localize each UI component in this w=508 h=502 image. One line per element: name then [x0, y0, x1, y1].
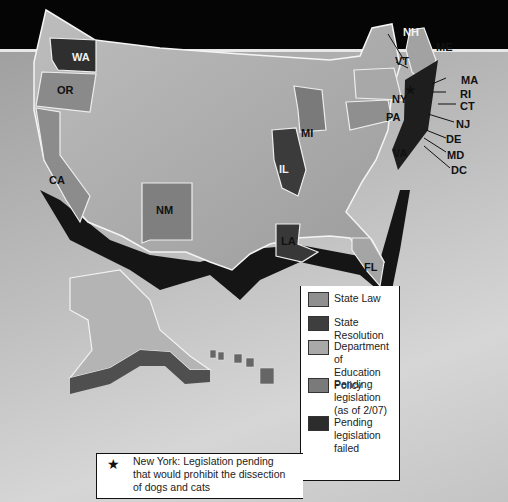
- ny-star-icon: ★: [405, 84, 416, 96]
- us-map: [0, 0, 508, 502]
- star-icon: ★: [107, 456, 120, 472]
- label-or: OR: [57, 85, 74, 96]
- legend-item-pending-failed: Pending legislation failed: [308, 416, 399, 455]
- new-york-note: ★ New York: Legislation pending that wou…: [96, 453, 303, 499]
- note-line-2: that would prohibit the dissection: [133, 468, 285, 481]
- swatch-pending: [308, 378, 329, 393]
- label-ca: CA: [49, 175, 65, 186]
- legend-label: Department of: [334, 340, 399, 366]
- label-nh: NH: [403, 27, 419, 38]
- label-ma: MA: [461, 75, 478, 86]
- label-ri: RI: [460, 89, 471, 100]
- note-line-3: of dogs and cats: [133, 481, 285, 494]
- legend-label: Pending legislation: [334, 378, 399, 404]
- label-pa: PA: [386, 112, 400, 123]
- legend-label: State Resolution: [334, 316, 399, 342]
- label-wa: WA: [72, 52, 90, 63]
- label-il: IL: [279, 164, 289, 175]
- label-me: ME: [436, 42, 453, 53]
- state-mi: [294, 86, 326, 132]
- label-nj: NJ: [456, 119, 470, 130]
- map-legend: State Law State Resolution Department of…: [300, 286, 400, 481]
- swatch-pending-failed: [308, 416, 329, 431]
- legend-item-pending: Pending legislation (as of 2/07): [308, 378, 399, 417]
- swatch-state-law: [308, 292, 329, 307]
- legend-item-state-law: State Law: [308, 292, 381, 307]
- legend-label-2: failed: [334, 442, 399, 455]
- legend-item-state-resolution: State Resolution: [308, 316, 399, 342]
- label-md: MD: [447, 150, 464, 161]
- label-de: DE: [446, 134, 461, 145]
- label-ct: CT: [460, 101, 475, 112]
- label-la: LA: [281, 236, 296, 247]
- label-vt: VT: [395, 56, 409, 67]
- swatch-state-resolution: [308, 316, 329, 331]
- label-mi: MI: [301, 128, 313, 139]
- legend-label: State Law: [334, 292, 381, 305]
- label-va: VA: [393, 148, 407, 159]
- label-fl: FL: [364, 262, 377, 273]
- note-line-1: New York: Legislation pending: [133, 455, 285, 468]
- legend-label: Pending legislation: [334, 416, 399, 442]
- label-dc: DC: [451, 165, 467, 176]
- swatch-education-policy: [308, 340, 329, 355]
- label-nm: NM: [156, 205, 173, 216]
